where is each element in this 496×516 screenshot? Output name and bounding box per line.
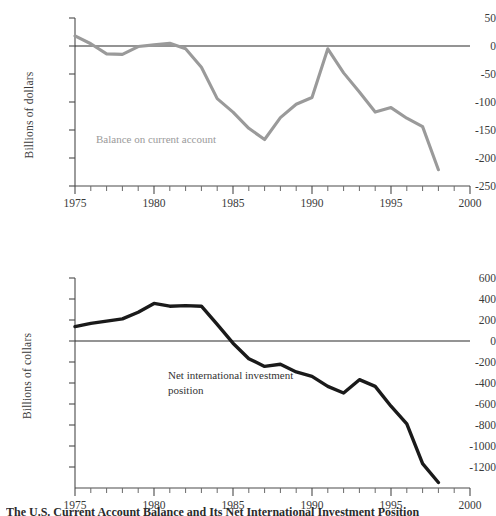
figure-caption: The U.S. Current Account Balance and Its…	[6, 505, 490, 516]
x-axis-major-ticks-top	[75, 186, 470, 194]
data-line-current-account	[75, 36, 438, 170]
y-axis-ticks-bottom	[69, 278, 75, 467]
series-annotation-current-account: Balance on current account	[96, 132, 216, 147]
x-axis-major-ticks-bottom	[75, 488, 470, 496]
chart-panel-current-account: Billions of dollars 50 0 -50 -100 -150 -…	[0, 0, 496, 258]
x-axis-minor-ticks-bottom	[91, 488, 454, 493]
figure-container: Billions of dollars 50 0 -50 -100 -150 -…	[0, 0, 496, 516]
chart-svg-current-account	[0, 0, 496, 258]
y-axis-title-bottom: Billions of collars	[21, 291, 33, 461]
x-axis-minor-ticks-top	[91, 186, 454, 191]
y-axis-ticks-top	[69, 18, 75, 186]
chart-panel-net-investment-position: Billions of collars 600 400 200 0 -200 -…	[0, 258, 496, 516]
series-annotation-net-investment-position: Net international investment position	[168, 368, 293, 398]
y-axis-title-top: Billions of dollars	[23, 30, 35, 200]
